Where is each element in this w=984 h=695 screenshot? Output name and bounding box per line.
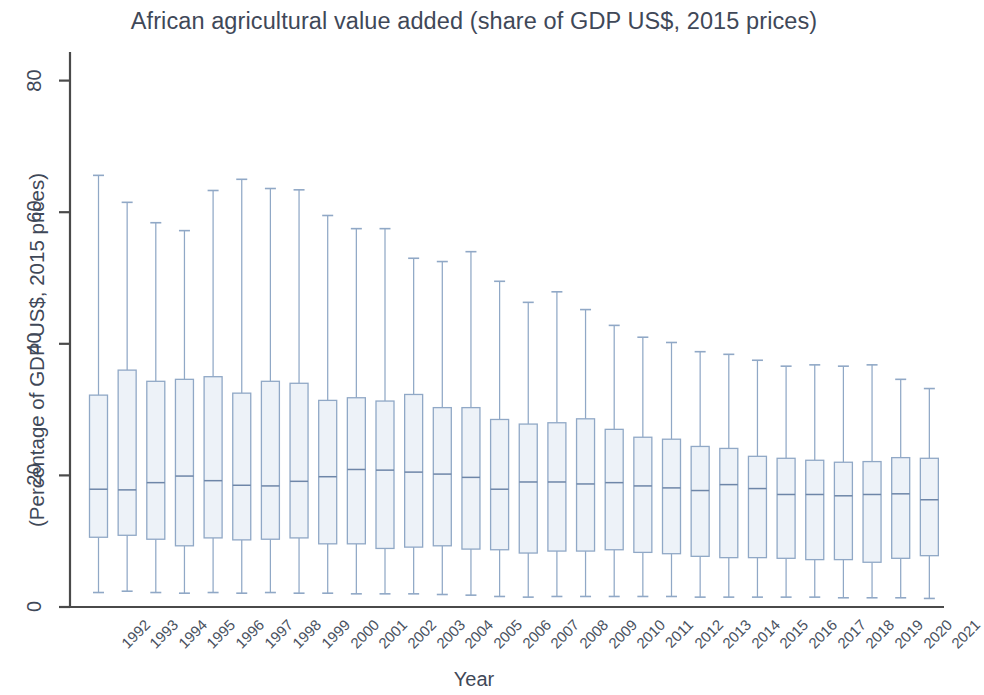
box-iqr [720,448,738,557]
box-plot-item [605,325,623,596]
box-plot-item [204,190,222,592]
box-plot-item [920,389,938,599]
box-plot-item [147,223,165,593]
box-iqr [204,377,222,538]
box-iqr [118,370,136,535]
box-plot-item [519,302,537,597]
box-plot-item [233,179,251,593]
box-plot-item [691,352,709,597]
box-plot-item [863,365,881,598]
box-iqr [462,408,480,549]
box-plot-item [892,379,910,597]
box-plot-item [462,252,480,595]
box-iqr [691,446,709,556]
box-iqr [548,423,566,551]
x-tick-label: 2021 [948,616,984,652]
box-iqr [261,381,279,539]
box-iqr [519,424,537,553]
box-iqr [290,383,308,538]
box-plot-item [748,360,766,597]
box-iqr [175,379,193,545]
box-plot-item [319,215,337,593]
box-iqr [663,439,681,553]
y-tick-label: 40 [23,323,46,363]
box-iqr [233,393,251,540]
box-iqr [806,460,824,559]
box-iqr [892,458,910,559]
box-plot-item [806,365,824,597]
box-plot-item [720,354,738,597]
box-iqr [834,462,852,559]
box-plot-item [433,262,451,595]
box-iqr [319,400,337,543]
box-plot-item [376,229,394,594]
box-iqr [920,458,938,555]
box-plot-item [777,366,795,597]
y-tick-label: 60 [23,192,46,232]
box-plot-item [175,231,193,594]
box-iqr [777,458,795,558]
box-plot-item [634,337,652,596]
box-plot-item [90,175,108,592]
box-plot-item [261,189,279,593]
box-plot-item [491,281,509,596]
box-plot-item [118,202,136,591]
box-iqr [376,401,394,548]
box-plot-item [347,229,365,594]
box-iqr [634,437,652,552]
box-plot-item [548,292,566,597]
y-tick-label: 80 [23,60,46,100]
box-iqr [748,456,766,557]
box-plot-item [577,310,595,597]
box-plot-item [663,342,681,596]
box-plot-item [405,258,423,594]
box-iqr [147,381,165,539]
box-iqr [433,408,451,546]
box-iqr [605,429,623,549]
box-series [90,175,939,598]
box-iqr [347,398,365,544]
box-iqr [405,394,423,547]
box-iqr [863,462,881,563]
y-tick-label: 20 [23,455,46,495]
y-tick-label: 0 [23,587,46,627]
box-iqr [491,419,509,549]
box-iqr [577,419,595,551]
box-plot-item [290,190,308,593]
box-iqr [90,395,108,537]
box-plot-item [834,366,852,598]
